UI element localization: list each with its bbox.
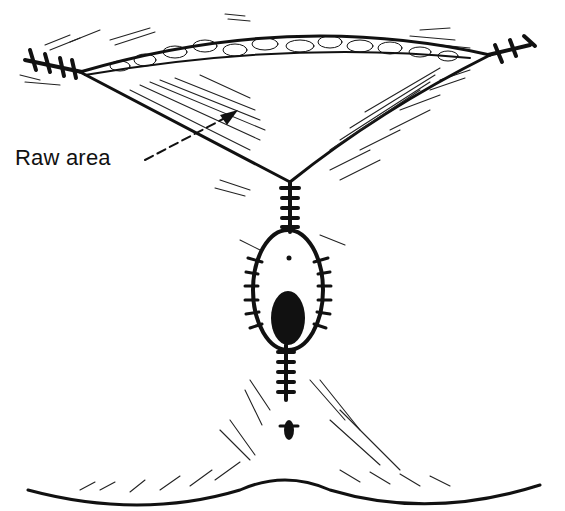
umbilicus-opening [271,291,305,345]
raw-area-label: Raw area [15,145,111,171]
ellipse-sutures [245,230,331,350]
surgical-illustration [0,0,565,511]
raw-area [82,55,490,182]
lower-mark [280,420,298,440]
lower-hatching [80,235,450,492]
label-pointer [145,110,238,160]
base-contour [28,480,540,505]
midline-suture [278,182,299,400]
skin-flap [80,36,490,75]
